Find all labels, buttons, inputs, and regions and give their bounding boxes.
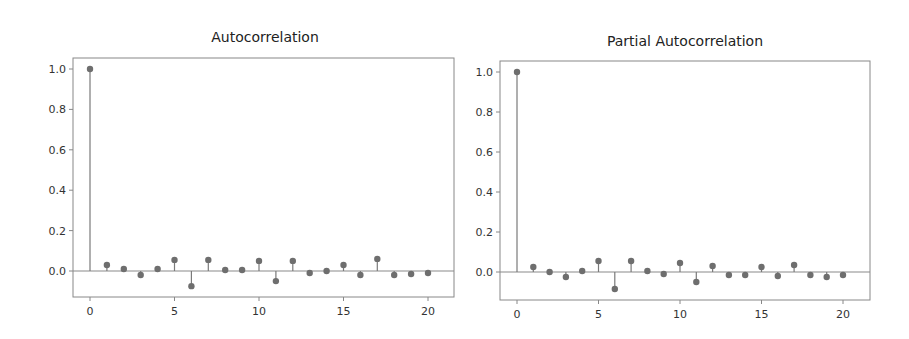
chart-pacf: Partial Autocorrelation0.00.20.40.60.81.… — [476, 33, 871, 321]
y-tick-label: 1.0 — [49, 63, 67, 76]
y-tick-label: 0.8 — [49, 103, 67, 116]
stem-marker — [612, 286, 618, 292]
x-tick-label: 0 — [87, 305, 94, 318]
stem-marker — [758, 264, 764, 270]
x-tick-label: 15 — [337, 305, 351, 318]
stem-marker — [188, 283, 194, 289]
stem-marker — [290, 258, 296, 264]
stem-marker — [87, 66, 93, 72]
stem-marker — [530, 264, 536, 270]
stem-marker — [791, 262, 797, 268]
stem-marker — [171, 257, 177, 263]
stem-marker — [840, 272, 846, 278]
x-tick-label: 20 — [421, 305, 435, 318]
x-tick-label: 5 — [595, 308, 602, 321]
stem-marker — [222, 267, 228, 273]
stem-marker — [239, 267, 245, 273]
y-tick-label: 0.8 — [476, 106, 494, 119]
y-tick-label: 0.2 — [476, 226, 494, 239]
chart-acf: Autocorrelation0.00.20.40.60.81.00510152… — [49, 29, 455, 318]
stem-marker — [661, 271, 667, 277]
stem-marker — [121, 266, 127, 272]
y-tick-label: 1.0 — [476, 66, 494, 79]
stem-marker — [644, 268, 650, 274]
y-tick-label: 0.4 — [476, 186, 494, 199]
chart-title: Autocorrelation — [211, 29, 319, 45]
figure: Autocorrelation0.00.20.40.60.81.00510152… — [0, 0, 909, 339]
stem-marker — [374, 256, 380, 262]
y-tick-label: 0.0 — [49, 265, 67, 278]
stem-marker — [357, 272, 363, 278]
stem-marker — [546, 269, 552, 275]
x-tick-label: 20 — [836, 308, 850, 321]
y-tick-label: 0.4 — [49, 184, 67, 197]
stem-marker — [742, 272, 748, 278]
y-tick-label: 0.6 — [476, 146, 494, 159]
stem-marker — [391, 272, 397, 278]
stem-marker — [563, 274, 569, 280]
stem-marker — [138, 272, 144, 278]
stem-marker — [340, 262, 346, 268]
stem-marker — [677, 260, 683, 266]
y-tick-label: 0.6 — [49, 144, 67, 157]
stem-marker — [595, 258, 601, 264]
chart-title: Partial Autocorrelation — [607, 33, 763, 49]
stem-marker — [104, 262, 110, 268]
y-tick-label: 0.2 — [49, 225, 67, 238]
stem-marker — [824, 274, 830, 280]
stem-marker — [323, 268, 329, 274]
stem-marker — [693, 279, 699, 285]
x-tick-label: 15 — [755, 308, 769, 321]
stem-marker — [425, 270, 431, 276]
axes-frame — [73, 58, 454, 297]
y-tick-label: 0.0 — [476, 266, 494, 279]
stem-marker — [807, 272, 813, 278]
stem-marker — [775, 273, 781, 279]
x-tick-label: 10 — [673, 308, 687, 321]
stem-marker — [726, 272, 732, 278]
x-tick-label: 5 — [171, 305, 178, 318]
stem-marker — [273, 278, 279, 284]
x-tick-label: 0 — [514, 308, 521, 321]
x-tick-label: 10 — [252, 305, 266, 318]
stem-marker — [514, 69, 520, 75]
stem-marker — [256, 258, 262, 264]
stem-marker — [307, 270, 313, 276]
stem-marker — [628, 258, 634, 264]
stem-marker — [709, 263, 715, 269]
stem-marker — [154, 266, 160, 272]
stem-marker — [579, 268, 585, 274]
axes-frame — [500, 61, 870, 300]
stem-marker — [205, 257, 211, 263]
stem-marker — [408, 271, 414, 277]
